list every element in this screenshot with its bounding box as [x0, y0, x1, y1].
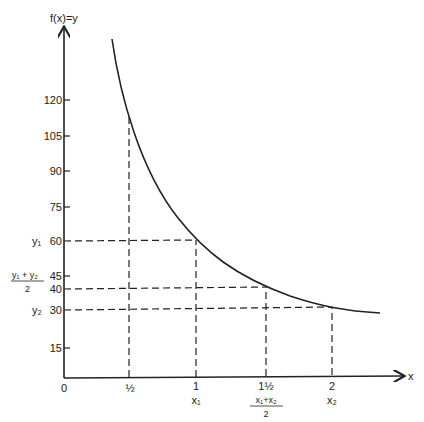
y1-label: y₁: [32, 235, 42, 247]
curve: [112, 39, 380, 313]
y-ticks: [64, 100, 70, 348]
svg-text:120: 120: [44, 94, 62, 106]
y-tick-labels: 120 105 90 75 60 45 40 30 15: [44, 94, 62, 354]
y2-label: y₂: [32, 304, 42, 316]
svg-text:1: 1: [193, 380, 199, 392]
svg-text:2: 2: [329, 380, 335, 392]
svg-text:45: 45: [50, 270, 62, 282]
svg-text:105: 105: [44, 130, 62, 142]
chart-canvas: f(x)=y x 120 105 90 75 60 45 40 30 15 y₁…: [0, 0, 424, 422]
svg-text:75: 75: [50, 201, 62, 213]
svg-text:30: 30: [50, 304, 62, 316]
svg-text:90: 90: [50, 165, 62, 177]
y-axis-label: f(x)=y: [50, 12, 78, 24]
x-tick-labels: 0 ½ 1 x₁ 1½ x₁+x₂ 2 2 x₂: [61, 380, 337, 419]
x-axis: [64, 376, 403, 378]
svg-text:x₁: x₁: [191, 394, 201, 406]
reference-lines: [64, 114, 332, 377]
svg-text:½: ½: [125, 382, 134, 394]
svg-text:15: 15: [50, 342, 62, 354]
y-mean-denominator: 2: [25, 284, 30, 294]
svg-text:40: 40: [50, 283, 62, 295]
svg-text:2: 2: [263, 409, 268, 419]
svg-text:x₂: x₂: [327, 394, 337, 406]
svg-text:x₁+x₂: x₁+x₂: [256, 395, 277, 405]
y-mean-numerator: y₁ + y₂: [12, 270, 38, 280]
svg-text:60: 60: [50, 235, 62, 247]
svg-text:1½: 1½: [258, 380, 273, 392]
svg-text:0: 0: [61, 382, 67, 394]
x-axis-label: x: [408, 370, 414, 382]
